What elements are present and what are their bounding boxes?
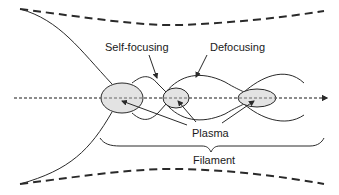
beam-envelope-bottom xyxy=(20,169,324,184)
beam-converge-top xyxy=(20,9,112,84)
filament-lower-path xyxy=(132,104,304,121)
plasma-arrow-3 xyxy=(222,101,254,123)
defocusing-label: Defocusing xyxy=(210,42,265,53)
defocusing-arrow xyxy=(196,55,207,77)
plasma-arrow-2 xyxy=(178,101,196,122)
self-focusing-arrow xyxy=(149,55,157,78)
filament-label: Filament xyxy=(193,155,235,166)
plasma-label: Plasma xyxy=(192,128,229,139)
filament-upper-path xyxy=(132,74,304,92)
beam-envelope-top xyxy=(20,9,324,25)
self-focusing-label: Self-focusing xyxy=(105,42,169,53)
filament-brace xyxy=(100,138,324,152)
filamentation-diagram xyxy=(0,0,339,195)
